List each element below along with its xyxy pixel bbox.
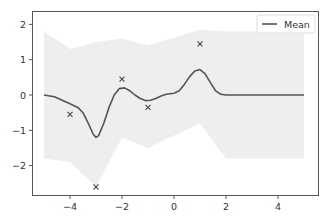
band-area [44, 30, 304, 187]
x-tick-label: 2 [223, 201, 229, 212]
y-tick-label: 0 [20, 90, 26, 101]
y-tick-label: 1 [20, 54, 26, 65]
y-tick-label: 2 [20, 19, 26, 30]
y-axis-ticks: 210−1−2 [12, 19, 33, 171]
uncertainty-band [44, 30, 304, 187]
chart: −4−2024 210−1−2 Mean [0, 0, 331, 223]
y-tick-label: −2 [12, 160, 26, 171]
x-tick-label: 4 [275, 201, 281, 212]
legend-label-mean: Mean [284, 19, 310, 30]
legend: Mean [257, 15, 315, 33]
x-axis-ticks: −4−2024 [63, 196, 281, 213]
x-tick-label: −2 [115, 201, 129, 212]
y-tick-label: −1 [12, 125, 26, 136]
x-tick-label: 0 [171, 201, 177, 212]
x-tick-label: −4 [63, 201, 77, 212]
